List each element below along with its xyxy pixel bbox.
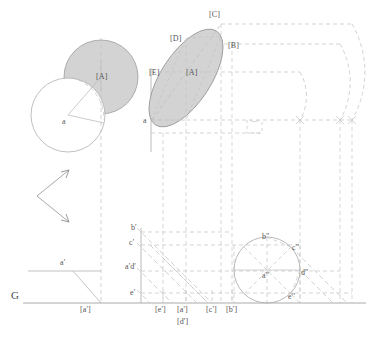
- label-ground-d-prime: [d']: [177, 318, 188, 326]
- label-ellipse-A: [A]: [186, 69, 197, 77]
- label-elevation-e-prime: e': [130, 289, 135, 297]
- transfer-line-b: [137, 228, 212, 303]
- aux-chord-b-c: [267, 237, 291, 247]
- rotation-arc-inner: [300, 72, 306, 120]
- ground-line-label: G: [11, 290, 19, 301]
- ellipse-view-group: [135, 17, 352, 303]
- label-ground-b-prime: [b']: [226, 306, 237, 314]
- small-elevation-group: [28, 271, 101, 303]
- arrow-upper-shaft: [37, 170, 69, 196]
- technical-drawing-canvas: G [A] a [C] [D] [B] [E] [A] a a' b' c' a…: [0, 0, 366, 350]
- label-ground-a-prime-left: [a']: [80, 306, 91, 314]
- direction-arrows-group: [37, 170, 69, 222]
- rotation-arc-middle: [340, 44, 350, 120]
- label-aux-d-double-prime: d": [301, 269, 308, 277]
- label-aux-b-double-prime: b": [262, 233, 269, 241]
- elevation-construction-group: [137, 228, 352, 303]
- label-ellipse-B: [B]: [228, 42, 239, 50]
- label-ground-a-prime: [a']: [177, 306, 188, 314]
- label-aux-e-double-prime: e": [288, 293, 295, 301]
- label-ground-e-prime: [e']: [155, 306, 166, 314]
- label-elevation-b-prime: b': [131, 224, 137, 232]
- plan-view-group: [31, 38, 138, 303]
- label-plan-A: [A]: [96, 73, 107, 81]
- label-ellipse-C: [C]: [209, 11, 220, 19]
- label-elevation-c-prime: c': [129, 239, 134, 247]
- aux-chord-d-e: [291, 270, 300, 294]
- tilted-ellipse-body: [135, 17, 238, 138]
- transfer-line-e: [137, 290, 150, 303]
- transfer-line-c: [137, 243, 197, 303]
- label-elevation-a-d-prime: a'd': [125, 263, 136, 271]
- label-aux-c-double-prime: c": [292, 244, 299, 252]
- rotation-arcs-group: [300, 24, 365, 120]
- label-ellipse-a: a: [143, 117, 147, 125]
- label-aux-a-double-prime: a": [262, 272, 269, 280]
- small-elevation-diagonal: [73, 271, 101, 303]
- transfer-lines-45: [137, 228, 212, 303]
- label-small-elevation-a-prime: a': [60, 259, 65, 267]
- label-plan-a: a: [62, 118, 66, 126]
- descriptive-geometry-figure: [0, 0, 366, 350]
- label-ground-c-prime: [c']: [206, 306, 217, 314]
- rotation-arc-outer: [352, 24, 365, 120]
- arrow-lower-shaft: [37, 196, 69, 222]
- label-ellipse-D: [D]: [170, 35, 181, 43]
- label-ellipse-E: [E]: [149, 69, 160, 77]
